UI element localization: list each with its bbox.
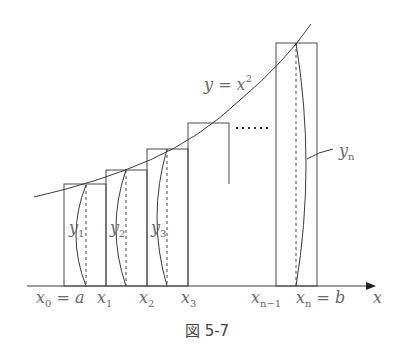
label-y3: y3 (150, 218, 166, 239)
label-xn: xn = b (296, 288, 345, 309)
label-y1: y1 (68, 218, 84, 239)
figure-caption: 図 5-7 (185, 322, 229, 340)
rect-4-partial (188, 123, 229, 286)
curve-label: y = x2 (203, 73, 252, 94)
curve-y-equals-x-squared (34, 24, 311, 197)
label-x3: x3 (181, 288, 196, 309)
riemann-sum-diagram: y = x2 y1 y2 y3 yn x0 = a x1 x2 x3 xn−1 … (0, 0, 413, 362)
label-xn-minus-1: xn−1 (251, 288, 281, 309)
label-x0: x0 = a (36, 288, 85, 309)
brace-arc-n (296, 43, 306, 286)
label-x2: x2 (139, 288, 154, 309)
label-x1: x1 (97, 288, 112, 309)
label-yn: yn (338, 141, 355, 162)
label-y2: y2 (109, 218, 125, 239)
axis-label-x: x (373, 288, 382, 307)
leader-line-yn (307, 149, 333, 159)
